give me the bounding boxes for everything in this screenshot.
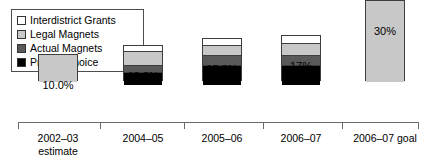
x-axis-category-label: 2006–07 [256, 132, 346, 145]
plot-area [0, 0, 437, 123]
bar-value-label: 17% [271, 60, 331, 72]
x-axis-category-label: 2002–03estimate [13, 132, 103, 158]
x-axis-line [18, 122, 419, 123]
bar-segment-interdistrict-grants [203, 39, 241, 46]
bar-value-label: 15.8% [192, 63, 252, 75]
category-label-main: 2005–06 [202, 132, 243, 144]
category-label-main: 2002–03 [38, 132, 79, 144]
bar-4[interactable] [281, 35, 321, 81]
bar-value-label: 10.0% [28, 79, 88, 91]
bar-segment-legal-magnets [39, 55, 77, 82]
bar-segment-interdistrict-grants [282, 36, 320, 44]
bar-segment-legal-magnets [282, 44, 320, 56]
bar-value-label: 13.3% [113, 70, 173, 82]
category-label-main: 2006–07 [281, 132, 322, 144]
bar-1[interactable] [38, 54, 78, 81]
x-axis-tick [263, 123, 264, 129]
bar-value-label: 30% [355, 25, 415, 37]
x-axis-category-label: 2005–06 [177, 132, 267, 145]
stacked-bar-chart: Interdistrict Grants Legal Magnets Actua… [0, 0, 437, 164]
x-axis-tick [184, 123, 185, 129]
x-axis-tick [100, 123, 101, 129]
bar-5[interactable] [365, 0, 405, 81]
x-axis-tick [342, 123, 343, 129]
category-label-sub: estimate [13, 145, 103, 158]
bar-segment-legal-magnets [203, 46, 241, 56]
x-axis-category-label: 2006–07 goal [340, 132, 430, 145]
x-axis-category-label: 2004–05 [98, 132, 188, 145]
bar-segment-legal-magnets [124, 52, 162, 65]
x-axis-tick [18, 123, 19, 129]
category-label-main: 2004–05 [123, 132, 164, 144]
category-label-main: 2006–07 goal [353, 132, 417, 144]
x-axis-tick [418, 123, 419, 129]
bar-segment-legal-magnets [366, 1, 404, 82]
